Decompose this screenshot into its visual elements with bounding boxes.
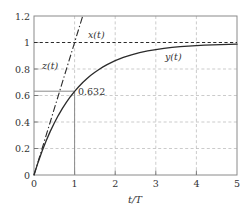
ytick-label-0.8: 0.8 <box>15 64 30 75</box>
x-curve-label: x(t) <box>88 29 105 40</box>
xtick-label-5: 5 <box>234 178 240 189</box>
ytick-label-1.2: 1.2 <box>15 11 30 22</box>
xtick-label-4: 4 <box>193 178 199 189</box>
xtick-label-0: 0 <box>31 178 37 189</box>
ytick-label-0: 0 <box>24 170 30 181</box>
ytick-label-0.2: 0.2 <box>15 143 30 154</box>
y-curve-label: y(t) <box>164 51 182 62</box>
ytick-label-1: 1 <box>24 37 30 48</box>
xtick-label-2: 2 <box>112 178 118 189</box>
step-response-plot: 1.2 1 0.8 0.6 0.4 0.2 0 0 1 2 3 4 5 t/T … <box>0 0 252 212</box>
z-curve-label: z(t) <box>41 60 59 71</box>
ytick-label-0.4: 0.4 <box>15 117 30 128</box>
chart-figure: 1.2 1 0.8 0.6 0.4 0.2 0 0 1 2 3 4 5 t/T … <box>0 0 252 212</box>
time-constant-value-label: 0.632 <box>78 86 105 97</box>
ytick-label-0.6: 0.6 <box>15 90 30 101</box>
xtick-label-1: 1 <box>72 178 78 189</box>
xtick-label-3: 3 <box>153 178 159 189</box>
plot-background <box>0 0 252 212</box>
x-axis-title: t/T <box>128 194 143 205</box>
